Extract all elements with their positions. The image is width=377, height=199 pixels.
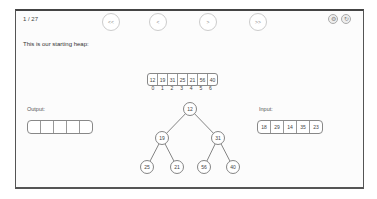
- tree-node: 25: [141, 161, 154, 174]
- tree-nodes: 12193125215640: [141, 103, 240, 174]
- svg-text:40: 40: [230, 164, 236, 170]
- tree-node: 31: [212, 132, 225, 145]
- tree-node: 12: [184, 103, 197, 116]
- tree-node: 19: [156, 132, 169, 145]
- tree-node: 40: [227, 161, 240, 174]
- tree-node: 21: [171, 161, 184, 174]
- svg-text:31: 31: [215, 135, 221, 141]
- svg-text:19: 19: [159, 135, 165, 141]
- svg-text:25: 25: [144, 164, 150, 170]
- svg-text:21: 21: [174, 164, 180, 170]
- svg-text:56: 56: [201, 164, 207, 170]
- tree-node: 56: [198, 161, 211, 174]
- heap-tree: 12193125215640: [0, 0, 377, 199]
- svg-text:12: 12: [187, 106, 193, 112]
